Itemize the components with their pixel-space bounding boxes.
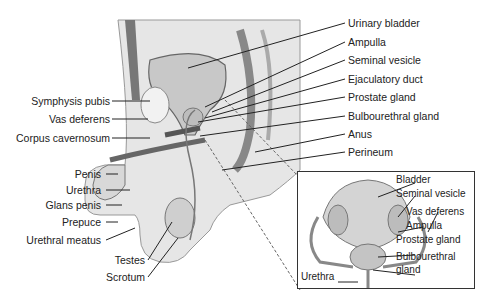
- inset-label-ampulla: Ampulla: [406, 220, 442, 231]
- label-vas-deferens: Vas deferens: [49, 113, 110, 125]
- label-testes: Testes: [115, 254, 145, 266]
- label-scrotum: Scrotum: [106, 271, 145, 283]
- label-glans-penis: Glans penis: [46, 199, 101, 211]
- inset-label-urethra: Urethra: [301, 271, 334, 282]
- label-ejaculatory-duct: Ejaculatory duct: [348, 73, 423, 85]
- label-penis: Penis: [75, 168, 101, 180]
- label-ampulla: Ampulla: [348, 36, 386, 48]
- label-bulbourethral-gland: Bulbourethral gland: [348, 110, 439, 122]
- label-seminal-vesicle: Seminal vesicle: [348, 54, 421, 66]
- inset-label-bulbourethral: Bulbourethral: [396, 251, 455, 262]
- inset-label-gland: gland: [396, 264, 420, 275]
- label-prepuce: Prepuce: [62, 216, 101, 228]
- label-urethra: Urethra: [66, 184, 101, 196]
- label-corpus-cavernosum: Corpus cavernosum: [16, 132, 110, 144]
- label-anus: Anus: [348, 128, 372, 140]
- inset-label-vas-deferens: Vas deferens: [406, 206, 464, 217]
- inset-label-prostate-gland: Prostate gland: [396, 234, 461, 245]
- label-urinary-bladder: Urinary bladder: [348, 17, 420, 29]
- label-perineum: Perineum: [348, 146, 393, 158]
- inset-label-seminal-vesicle: Seminal vesicle: [396, 188, 465, 199]
- inset-label-bladder: Bladder: [396, 174, 430, 185]
- label-symphysis-pubis: Symphysis pubis: [31, 95, 110, 107]
- inset-posterior-view: Bladder Seminal vesicle Vas deferens Amp…: [297, 171, 475, 289]
- label-prostate-gland: Prostate gland: [348, 91, 416, 103]
- label-urethral-meatus: Urethral meatus: [26, 234, 101, 246]
